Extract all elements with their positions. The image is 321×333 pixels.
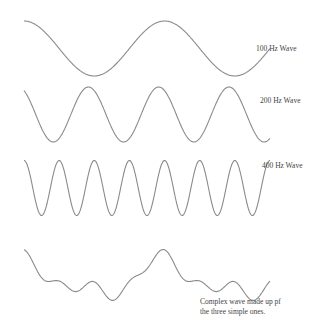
label-100hz: 100 Hz Wave (256, 44, 297, 53)
complex-wave (24, 250, 270, 301)
complex-caption-line1: Complex wave made up pf (200, 297, 281, 307)
complex-caption-line2: the three simple ones. (200, 307, 281, 317)
complex-caption: Complex wave made up pf the three simple… (200, 297, 281, 317)
label-400hz: 400 Hz Wave (262, 161, 303, 170)
label-200hz: 200 Hz Wave (260, 96, 301, 105)
wave-200hz (24, 87, 270, 142)
wave-100hz (24, 21, 270, 76)
wave-400hz (24, 161, 270, 216)
